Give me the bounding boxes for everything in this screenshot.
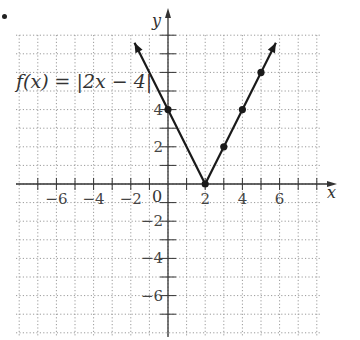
origin-label: 0 (152, 187, 162, 206)
data-point (220, 143, 227, 150)
axes (16, 8, 337, 337)
x-axis-label: x (327, 183, 336, 202)
y-tick-label: −6 (141, 287, 163, 305)
x-tick-label: 6 (275, 190, 285, 208)
x-tick-label: −6 (45, 190, 67, 208)
y-tick-label: 2 (153, 138, 163, 156)
y-axis-label: y (151, 11, 162, 30)
x-tick-label: 2 (200, 190, 210, 208)
data-point (257, 69, 264, 76)
data-point (164, 106, 171, 113)
x-tick-label: −2 (120, 190, 142, 208)
y-tick-label: 4 (153, 101, 163, 119)
data-point (202, 180, 209, 187)
y-tick-label: −2 (141, 212, 163, 230)
function-graph: −6−4−224642−2−4−6 f(x) = |2x − 4| x y 0 (0, 0, 360, 340)
x-tick-label: 4 (238, 190, 248, 208)
function-label: f(x) = |2x − 4| (14, 70, 152, 93)
y-tick-label: −4 (141, 249, 163, 267)
data-point (239, 106, 246, 113)
x-tick-label: −4 (83, 190, 105, 208)
